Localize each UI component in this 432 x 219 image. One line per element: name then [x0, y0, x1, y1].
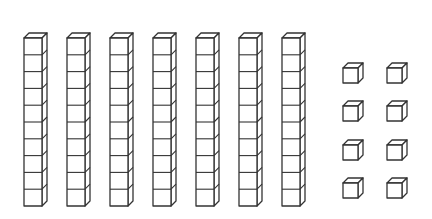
unit-cube [387, 178, 407, 198]
unit-cube [387, 63, 407, 83]
ten-rod [110, 33, 133, 206]
ten-rod [239, 33, 262, 206]
unit-cube [343, 63, 363, 83]
unit-cube [343, 140, 363, 160]
unit-cube [343, 101, 363, 121]
ten-rod [24, 33, 47, 206]
ten-rods-group [24, 33, 305, 206]
ten-rod [67, 33, 90, 206]
ten-rod [153, 33, 176, 206]
unit-cube [343, 178, 363, 198]
blocks-canvas [0, 0, 432, 219]
ten-rod [282, 33, 305, 206]
ten-rod [196, 33, 219, 206]
unit-cube [387, 101, 407, 121]
unit-cube [387, 140, 407, 160]
unit-cubes-group [343, 63, 407, 198]
